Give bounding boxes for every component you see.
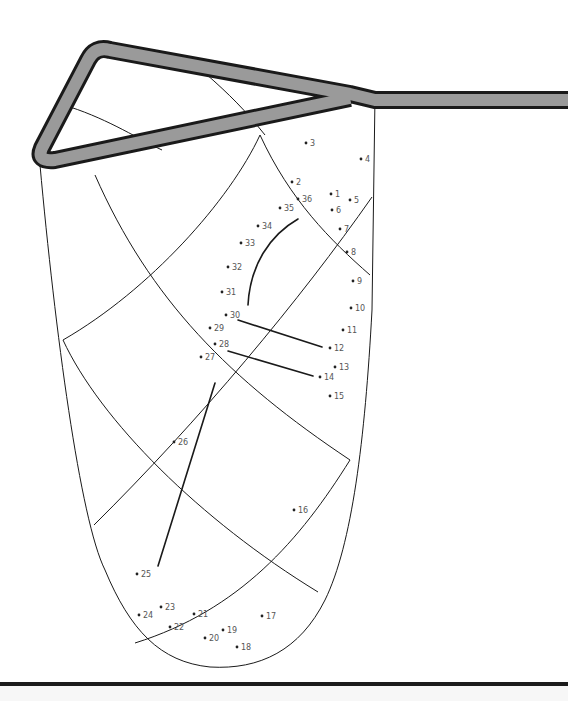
dot-marker[interactable] bbox=[193, 613, 196, 616]
stick-frame bbox=[41, 49, 568, 160]
dot-marker[interactable] bbox=[305, 142, 308, 145]
dot-27[interactable]: 27 bbox=[200, 353, 216, 362]
dot-marker[interactable] bbox=[349, 199, 352, 202]
dot-label: 1 bbox=[335, 190, 340, 199]
dot-12[interactable]: 12 bbox=[329, 344, 345, 353]
dot-marker[interactable] bbox=[204, 637, 207, 640]
dot-28[interactable]: 28 bbox=[214, 340, 230, 349]
dot-8[interactable]: 8 bbox=[346, 248, 356, 257]
dot-label: 24 bbox=[143, 611, 153, 620]
dot-label: 27 bbox=[205, 353, 215, 362]
dot-label: 10 bbox=[355, 304, 365, 313]
dot-marker[interactable] bbox=[334, 366, 337, 369]
dot-marker[interactable] bbox=[293, 509, 296, 512]
dot-marker[interactable] bbox=[329, 347, 332, 350]
dot-label: 23 bbox=[165, 603, 175, 612]
dot-11[interactable]: 11 bbox=[342, 326, 358, 335]
net-lines bbox=[40, 73, 375, 667]
dot-marker[interactable] bbox=[342, 329, 345, 332]
dot-marker[interactable] bbox=[221, 291, 224, 294]
dot-label: 2 bbox=[296, 178, 301, 187]
dot-1[interactable]: 1 bbox=[330, 190, 340, 199]
dot-marker[interactable] bbox=[330, 193, 333, 196]
dot-marker[interactable] bbox=[236, 646, 239, 649]
dot-20[interactable]: 20 bbox=[204, 634, 220, 643]
dot-marker[interactable] bbox=[209, 327, 212, 330]
net-arc-7 bbox=[63, 340, 318, 592]
dot-24[interactable]: 24 bbox=[138, 611, 154, 620]
dot-label: 7 bbox=[344, 225, 349, 234]
dot-19[interactable]: 19 bbox=[222, 626, 238, 635]
dot-label: 14 bbox=[324, 373, 334, 382]
dot-marker[interactable] bbox=[200, 356, 203, 359]
string-line-1 bbox=[238, 320, 322, 347]
shooting-string bbox=[158, 383, 215, 566]
dot-marker[interactable] bbox=[279, 207, 282, 210]
dot-14[interactable]: 14 bbox=[319, 373, 335, 382]
dot-label: 16 bbox=[298, 506, 308, 515]
dot-label: 32 bbox=[232, 263, 242, 272]
dot-25[interactable]: 25 bbox=[136, 570, 152, 579]
dot-22[interactable]: 22 bbox=[169, 623, 185, 632]
dot-marker[interactable] bbox=[350, 307, 353, 310]
net-arc-6 bbox=[94, 197, 372, 525]
net-arc-5 bbox=[63, 135, 260, 340]
dot-label: 21 bbox=[198, 610, 208, 619]
dot-marker[interactable] bbox=[138, 614, 141, 617]
dot-26[interactable]: 26 bbox=[173, 438, 189, 447]
dot-34[interactable]: 34 bbox=[257, 222, 273, 231]
dot-2[interactable]: 2 bbox=[291, 178, 301, 187]
dot-marker[interactable] bbox=[291, 181, 294, 184]
dot-marker[interactable] bbox=[352, 280, 355, 283]
dot-marker[interactable] bbox=[297, 198, 300, 201]
dot-marker[interactable] bbox=[360, 158, 363, 161]
dot-label: 28 bbox=[219, 340, 229, 349]
dot-29[interactable]: 29 bbox=[209, 324, 225, 333]
footer-area bbox=[0, 686, 568, 701]
dot-5[interactable]: 5 bbox=[349, 196, 359, 205]
dot-35[interactable]: 35 bbox=[279, 204, 295, 213]
dot-marker[interactable] bbox=[136, 573, 139, 576]
dot-marker[interactable] bbox=[225, 314, 228, 317]
dot-marker[interactable] bbox=[222, 629, 225, 632]
dot-31[interactable]: 31 bbox=[221, 288, 237, 297]
dot-marker[interactable] bbox=[257, 225, 260, 228]
dot-label: 22 bbox=[174, 623, 184, 632]
dot-marker[interactable] bbox=[227, 266, 230, 269]
dot-marker[interactable] bbox=[331, 209, 334, 212]
dot-label: 31 bbox=[226, 288, 236, 297]
dot-15[interactable]: 15 bbox=[329, 392, 345, 401]
frame-fill bbox=[41, 49, 568, 160]
dot-marker[interactable] bbox=[169, 626, 172, 629]
dot-9[interactable]: 9 bbox=[352, 277, 362, 286]
dot-label: 9 bbox=[357, 277, 362, 286]
dot-label: 36 bbox=[302, 195, 312, 204]
dot-marker[interactable] bbox=[346, 251, 349, 254]
dot-17[interactable]: 17 bbox=[261, 612, 277, 621]
dot-marker[interactable] bbox=[261, 615, 264, 618]
dot-4[interactable]: 4 bbox=[360, 155, 370, 164]
dot-32[interactable]: 32 bbox=[227, 263, 243, 272]
dot-marker[interactable] bbox=[339, 228, 342, 231]
dot-marker[interactable] bbox=[329, 395, 332, 398]
dot-marker[interactable] bbox=[173, 441, 176, 444]
net-arc-8 bbox=[135, 460, 350, 643]
dot-6[interactable]: 6 bbox=[331, 206, 341, 215]
dot-marker[interactable] bbox=[240, 242, 243, 245]
dot-marker[interactable] bbox=[214, 343, 217, 346]
dot-23[interactable]: 23 bbox=[160, 603, 176, 612]
dot-33[interactable]: 33 bbox=[240, 239, 256, 248]
dot-label: 25 bbox=[141, 570, 151, 579]
dot-marker[interactable] bbox=[160, 606, 163, 609]
dot-3[interactable]: 3 bbox=[305, 139, 315, 148]
dot-7[interactable]: 7 bbox=[339, 225, 349, 234]
dot-label: 18 bbox=[241, 643, 251, 652]
dot-10[interactable]: 10 bbox=[350, 304, 366, 313]
dot-30[interactable]: 30 bbox=[225, 311, 241, 320]
dot-18[interactable]: 18 bbox=[236, 643, 252, 652]
dot-13[interactable]: 13 bbox=[334, 363, 350, 372]
dot-36[interactable]: 36 bbox=[297, 195, 313, 204]
dot-marker[interactable] bbox=[319, 376, 322, 379]
ball-arc bbox=[248, 219, 298, 305]
dot-16[interactable]: 16 bbox=[293, 506, 309, 515]
